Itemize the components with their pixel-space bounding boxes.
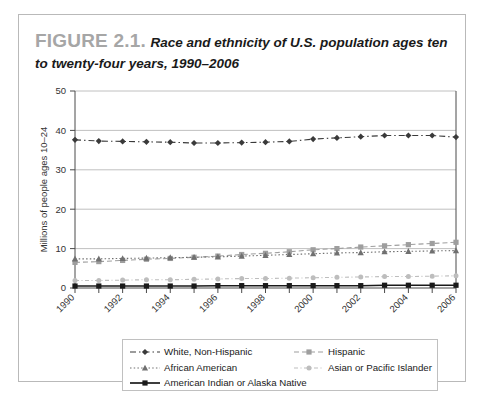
legend-label: Asian or Pacific Islander <box>328 362 432 373</box>
data-point <box>382 274 387 279</box>
data-point <box>453 247 459 253</box>
data-point <box>168 277 173 282</box>
legend-label: White, Non-Hispanic <box>164 346 252 357</box>
data-point <box>215 276 220 281</box>
data-point <box>382 243 387 248</box>
data-point <box>192 277 197 282</box>
data-point <box>287 283 292 288</box>
y-axis-tick-label: 50 <box>55 85 66 96</box>
data-point <box>430 241 435 246</box>
data-point <box>215 283 220 288</box>
data-point <box>191 140 197 146</box>
series-white-non-hispanic <box>72 132 459 146</box>
legend-item-hispanic[interactable]: Hispanic <box>293 344 365 359</box>
data-point <box>358 134 364 140</box>
data-point <box>406 242 411 247</box>
data-point <box>311 275 316 280</box>
series-african-american <box>72 247 459 261</box>
y-axis-tick-label: 20 <box>55 204 66 215</box>
y-axis-tick-label: 40 <box>55 125 66 136</box>
data-point <box>430 274 435 279</box>
data-point <box>239 283 244 288</box>
x-axis-tick-label: 1998 <box>244 292 267 315</box>
data-point <box>96 283 101 288</box>
data-point <box>167 139 173 145</box>
legend-swatch-icon <box>129 362 161 374</box>
chart-legend: White, Non-HispanicHispanicAfrican Ameri… <box>122 339 438 391</box>
data-point <box>381 132 387 138</box>
data-point <box>263 283 268 288</box>
data-point <box>144 277 149 282</box>
data-point <box>429 132 435 138</box>
data-point <box>454 273 459 278</box>
legend-swatch-icon <box>129 346 161 358</box>
legend-label: American Indian or Alaska Native <box>164 377 307 388</box>
data-point <box>72 137 78 143</box>
y-axis-tick-label: 30 <box>55 164 66 175</box>
data-point <box>406 283 411 288</box>
legend-item-american-indian-or-alaska-native[interactable]: American Indian or Alaska Native <box>129 375 307 390</box>
legend-swatch-icon <box>129 377 161 389</box>
data-point <box>120 283 125 288</box>
data-point <box>358 274 363 279</box>
legend-item-african-american[interactable]: African American <box>129 360 237 375</box>
y-axis-title: Millions of people ages 10–24 <box>38 127 49 253</box>
x-axis-tick-label: 1994 <box>149 292 172 315</box>
data-point <box>73 278 78 283</box>
data-point <box>120 138 126 144</box>
data-point <box>334 283 339 288</box>
data-point <box>311 283 316 288</box>
data-point <box>453 134 459 140</box>
data-point <box>168 283 173 288</box>
figure-card: FIGURE 2.1. Race and ethnicity of U.S. p… <box>18 14 466 382</box>
data-point <box>286 138 292 144</box>
x-axis-tick-label: 2004 <box>387 292 410 315</box>
legend-item-asian-or-pacific-islander[interactable]: Asian or Pacific Islander <box>293 360 432 375</box>
data-point <box>262 139 268 145</box>
data-point <box>453 283 458 288</box>
data-point <box>406 274 411 279</box>
data-point <box>358 244 363 249</box>
data-point <box>358 283 363 288</box>
y-axis-tick-label: 10 <box>55 243 66 254</box>
chart-plot-area: 0102030405019901992199419961998200020022… <box>19 15 467 383</box>
legend-swatch-icon <box>293 346 325 358</box>
line-chart: 0102030405019901992199419961998200020022… <box>19 15 467 315</box>
data-point <box>144 283 149 288</box>
x-axis-tick-label: 1996 <box>197 292 220 315</box>
data-point <box>120 278 125 283</box>
legend-item-white-non-hispanic[interactable]: White, Non-Hispanic <box>129 344 252 359</box>
data-point <box>239 276 244 281</box>
data-point <box>215 140 221 146</box>
data-point <box>191 283 196 288</box>
x-axis-tick-label: 1992 <box>101 292 124 315</box>
legend-label: African American <box>164 362 237 373</box>
data-point <box>263 276 268 281</box>
legend-swatch-icon <box>293 362 325 374</box>
data-point <box>453 240 458 245</box>
data-point <box>72 283 77 288</box>
data-point <box>72 256 78 262</box>
data-point <box>96 278 101 283</box>
legend-label: Hispanic <box>328 346 365 357</box>
y-axis-tick-label: 0 <box>61 282 66 293</box>
data-point <box>310 136 316 142</box>
data-point <box>382 283 387 288</box>
x-axis-tick-label: 2002 <box>339 292 362 315</box>
data-point <box>143 139 149 145</box>
x-axis-tick-label: 2000 <box>292 292 315 315</box>
x-axis-tick-label: 2006 <box>435 292 458 315</box>
data-point <box>334 275 339 280</box>
data-point <box>239 140 245 146</box>
data-point <box>96 138 102 144</box>
data-point <box>405 132 411 138</box>
data-point <box>334 135 340 141</box>
data-point <box>430 283 435 288</box>
data-point <box>287 276 292 281</box>
series-asian-or-pacific-islander <box>73 273 459 283</box>
data-point <box>358 249 364 255</box>
x-axis-tick-label: 1990 <box>54 292 77 315</box>
